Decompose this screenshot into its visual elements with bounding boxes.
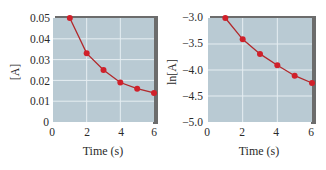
data-point xyxy=(240,36,246,42)
concentration-vs-time-chart: 0.05 0.04 0.03 0.02 0.01 0 0 2 4 6 Time … xyxy=(0,0,163,170)
y-axis-title: [A] xyxy=(9,47,21,97)
y-tick-label: 0.04 xyxy=(10,33,50,45)
ln-concentration-vs-time-chart: −3.0 −3.5 −4.0 −4.5 −5.0 0 2 4 6 Time (s… xyxy=(163,0,326,170)
data-point xyxy=(292,73,298,79)
x-tick-label: 4 xyxy=(113,126,129,138)
x-tick-label: 4 xyxy=(268,126,284,138)
y-tick-label: 0 xyxy=(9,116,49,128)
x-tick-label: 6 xyxy=(146,126,162,138)
data-point xyxy=(257,51,263,57)
y-tick-label: −5.0 xyxy=(163,116,203,128)
y-tick-label: −3.0 xyxy=(163,11,203,23)
x-tick-label: 2 xyxy=(79,126,95,138)
data-point xyxy=(84,50,90,56)
data-point xyxy=(274,62,280,68)
y-tick-label: 0.05 xyxy=(10,12,50,24)
x-axis-title: Time (s) xyxy=(63,145,143,157)
data-point xyxy=(309,80,315,86)
data-point xyxy=(117,79,123,85)
x-tick-label: 2 xyxy=(234,126,250,138)
x-tick-label: 6 xyxy=(303,126,319,138)
x-tick-label: 0 xyxy=(199,126,215,138)
data-point xyxy=(134,86,140,92)
data-point xyxy=(67,15,73,21)
x-axis-title: Time (s) xyxy=(219,145,299,157)
data-point xyxy=(222,15,228,21)
data-point xyxy=(101,67,107,73)
y-axis-title: ln[A] xyxy=(166,47,178,97)
x-tick-label: 0 xyxy=(44,126,60,138)
data-point xyxy=(151,90,157,96)
